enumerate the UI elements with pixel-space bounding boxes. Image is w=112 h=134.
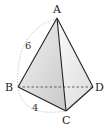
vertex-label-a: A — [52, 3, 62, 16]
length-label-bc: 4 — [32, 102, 38, 113]
vertex-label-c: C — [62, 114, 70, 127]
length-label-ab: 6 — [25, 40, 31, 51]
vertex-label-d: D — [95, 81, 104, 94]
vertex-label-b: B — [5, 81, 13, 94]
tetrahedron-diagram: A B C D 6 4 — [0, 0, 112, 134]
